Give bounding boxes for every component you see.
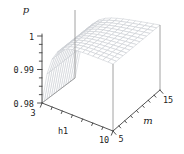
y-axis-label: m [143,115,152,126]
y-minor-tick [142,105,144,107]
x-major-tick [111,131,113,135]
x-minor-tick [51,107,52,110]
y-tick-label-15: 15 [163,95,173,105]
surface-mesh [42,18,160,103]
plot3d-figure: p0.980.991310h1515m [0,0,184,154]
y-minor-tick [119,126,121,128]
x-minor-tick [102,127,103,130]
y-minor-tick [154,95,156,97]
x-minor-tick [82,119,83,122]
x-tick-label-10: 10 [99,135,109,145]
y-major-tick [113,131,116,134]
x-minor-tick [61,111,62,114]
y-minor-tick [125,121,127,123]
z-tick-label-0_98: 0.98 [14,99,34,109]
x-major-tick [40,103,42,107]
z-tick-label-0_99: 0.99 [14,65,34,75]
y-minor-tick [148,100,150,102]
x-tick-label-3: 3 [30,108,35,118]
x-minor-tick [71,115,72,118]
y-minor-tick [131,116,133,118]
y-tick-label-5: 5 [118,134,123,144]
y-major-tick [160,90,163,93]
z-tick-label-1: 1 [29,32,34,42]
z-axis-label: p [23,4,30,15]
y-minor-tick [137,111,139,113]
x-axis-label: h1 [58,126,68,136]
surface-plot: p0.980.991310h1515m [0,0,184,154]
x-axis-line [42,103,113,131]
x-minor-tick [92,123,93,126]
